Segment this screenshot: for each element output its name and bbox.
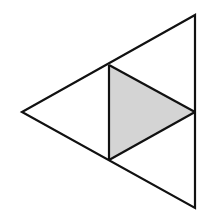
subdivided-triangle-diagram xyxy=(0,0,208,212)
center-triangle-shaded xyxy=(109,65,195,160)
